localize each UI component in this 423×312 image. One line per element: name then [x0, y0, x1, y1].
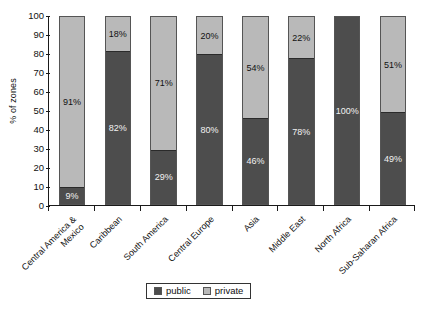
y-tick-label: 100 [18, 10, 44, 22]
bar-stack: 100% [334, 16, 361, 205]
bars-container: 91%9%18%82%71%29%20%80%54%46%22%78%100%5… [49, 16, 415, 205]
bar-segment-label-private: 20% [201, 31, 219, 41]
y-tick-label: 40 [18, 124, 44, 136]
y-tick-label: 50 [18, 105, 44, 117]
bar-segment-private[interactable]: 18% [106, 17, 131, 51]
y-axis-title: % of zones [8, 61, 18, 141]
bar-segment-label-private: 71% [155, 78, 173, 88]
bar-segment-public[interactable]: 80% [197, 54, 222, 204]
x-axis-label-line1: Middle East [267, 214, 307, 254]
bar-group[interactable]: 51%49% [380, 16, 407, 205]
bar-segment-label-public: 46% [246, 156, 264, 166]
bar-segment-label-private: 22% [292, 33, 310, 43]
legend-item-public[interactable]: public [154, 286, 191, 296]
x-axis-label-line1: Central Europe [166, 214, 216, 264]
bar-segment-label-public: 29% [155, 172, 173, 182]
bar-group[interactable]: 22%78% [288, 16, 315, 205]
legend-label-public: public [166, 286, 191, 296]
legend-label-private: private [215, 286, 244, 296]
bar-stack: 91%9% [59, 16, 86, 205]
bar-stack: 51%49% [380, 16, 407, 205]
y-tick-label: 90 [18, 29, 44, 41]
bar-segment-private[interactable]: 22% [289, 17, 314, 58]
bar-segment-private[interactable]: 20% [197, 17, 222, 54]
bar-segment-label-private: 54% [246, 63, 264, 73]
x-axis-label-line1: South America [121, 214, 169, 262]
bar-stack: 20%80% [196, 16, 223, 205]
bar-segment-label-private: 91% [63, 97, 81, 107]
bar-segment-private[interactable]: 51% [381, 17, 406, 112]
legend-swatch-public-icon [154, 287, 162, 295]
y-tick-label: 60 [18, 86, 44, 98]
bar-segment-label-private: 18% [109, 29, 127, 39]
bar-segment-public[interactable]: 9% [60, 187, 85, 204]
bar-segment-label-private: 51% [384, 60, 402, 70]
stacked-bar-chart: % of zones 1009080706050403020100 91%9%1… [0, 0, 423, 312]
bar-group[interactable]: 54%46% [242, 16, 269, 205]
y-tick-label: 20 [18, 162, 44, 174]
legend-item-private[interactable]: private [203, 286, 244, 296]
y-tick-label: 70 [18, 67, 44, 79]
bar-stack: 71%29% [150, 16, 177, 205]
bar-stack: 54%46% [242, 16, 269, 205]
y-tick-label: 30 [18, 143, 44, 155]
bar-segment-label-public: 9% [65, 191, 78, 201]
y-axis-tick-labels: 1009080706050403020100 [18, 11, 44, 211]
bar-segment-label-public: 82% [109, 123, 127, 133]
bar-group[interactable]: 18%82% [105, 16, 132, 205]
bar-segment-label-public: 49% [384, 154, 402, 164]
bar-segment-private[interactable]: 54% [243, 17, 268, 118]
bar-stack: 22%78% [288, 16, 315, 205]
legend: public private [146, 283, 251, 299]
bar-group[interactable]: 100% [334, 16, 361, 205]
bar-group[interactable]: 91%9% [59, 16, 86, 205]
bar-stack: 18%82% [105, 16, 132, 205]
x-axis-label-line1: Asia [242, 214, 261, 233]
bar-segment-public[interactable]: 46% [243, 118, 268, 204]
bar-segment-label-public: 78% [292, 127, 310, 137]
x-axis-label-line1: North Africa [313, 214, 353, 254]
y-tick-label: 10 [18, 181, 44, 193]
bar-segment-public[interactable]: 100% [335, 17, 360, 204]
bar-segment-private[interactable]: 71% [151, 17, 176, 150]
bar-segment-public[interactable]: 29% [151, 150, 176, 204]
legend-swatch-private-icon [203, 287, 211, 295]
y-tick-label: 80 [18, 48, 44, 60]
bar-segment-public[interactable]: 78% [289, 58, 314, 204]
x-axis-label-line1: Caribbean [87, 214, 123, 250]
bar-group[interactable]: 20%80% [196, 16, 223, 205]
bar-segment-public[interactable]: 82% [106, 51, 131, 204]
bar-segment-label-public: 80% [201, 125, 219, 135]
bar-segment-label-public: 100% [336, 106, 359, 116]
bar-group[interactable]: 71%29% [150, 16, 177, 205]
bar-segment-private[interactable]: 91% [60, 17, 85, 187]
plot-area: 91%9%18%82%71%29%20%80%54%46%22%78%100%5… [48, 16, 415, 206]
bar-segment-public[interactable]: 49% [381, 112, 406, 204]
